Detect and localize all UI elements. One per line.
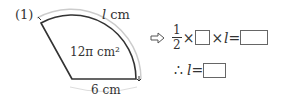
area-label: 12π cm² [70, 46, 120, 58]
problem-number: (1) [15, 8, 33, 21]
one-half-fraction: 1 2 [172, 24, 182, 51]
hollow-right-arrow-icon [150, 32, 166, 44]
radius-answer-box[interactable] [195, 30, 210, 45]
equation-line-2: ∴ l = [174, 62, 226, 78]
area-answer-box[interactable] [240, 30, 268, 45]
equation-line-1: 1 2 × × l = [150, 24, 268, 51]
radius-label: 6 cm [91, 84, 121, 96]
arc-length-answer-box[interactable] [203, 63, 226, 78]
arc-length-label: l cm [102, 8, 130, 21]
